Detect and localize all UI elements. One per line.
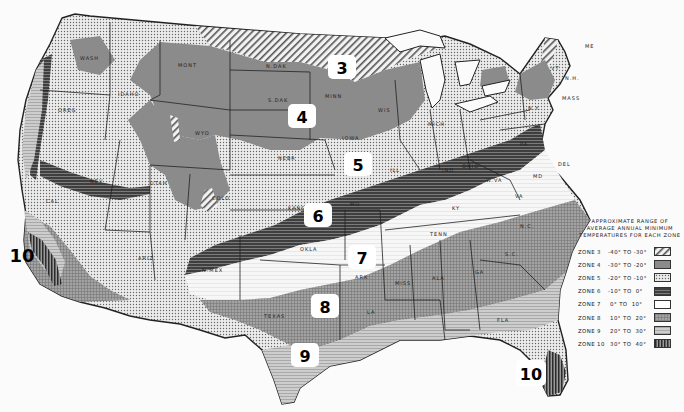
svg-text:DEL: DEL: [558, 161, 571, 167]
svg-text:NEV: NEV: [90, 178, 103, 184]
svg-text:9: 9: [299, 347, 310, 366]
legend-swatch-light-horizontal: [654, 326, 671, 335]
legend-row-zone-4: ZONE 4 -30° TO -20°: [578, 258, 682, 271]
svg-text:IDAHO: IDAHO: [118, 91, 139, 97]
legend-zone-label: ZONE 4: [578, 262, 608, 268]
legend-swatch-dots: [654, 273, 671, 282]
zone-marker-10-california: 10: [9, 245, 34, 266]
zone-marker-3: 3: [328, 55, 356, 79]
legend-title-line-1: APPROXIMATE RANGE OF: [578, 218, 682, 225]
svg-text:MONT: MONT: [178, 62, 197, 68]
svg-text:OHIO: OHIO: [462, 163, 479, 169]
legend-swatch-dark-horizontal: [654, 287, 671, 296]
legend-zone-label: ZONE 3: [578, 249, 608, 255]
svg-text:KANS: KANS: [288, 205, 306, 211]
svg-text:OKLA: OKLA: [300, 246, 318, 252]
zone-marker-6: 6: [304, 203, 332, 227]
legend-swatch-diagonal-hatch: [654, 247, 671, 256]
zone-marker-7: 7: [348, 245, 376, 269]
svg-text:TENN: TENN: [429, 231, 448, 237]
svg-text:S.C.: S.C.: [505, 251, 519, 257]
svg-text:5: 5: [352, 156, 363, 175]
svg-text:N.C.: N.C.: [520, 223, 534, 229]
svg-text:ME: ME: [585, 43, 594, 49]
legend-title-line-2: AVERAGE ANNUAL MINIMUM: [578, 225, 682, 232]
svg-text:10: 10: [9, 245, 34, 266]
svg-text:ALA: ALA: [432, 275, 445, 281]
legend-row-zone-3: ZONE 3 -40° TO -30°: [578, 245, 682, 258]
svg-text:LA: LA: [367, 309, 375, 315]
legend-row-zone-5: ZONE 5 -20° TO -10°: [578, 271, 682, 284]
legend-zone-label: ZONE 10: [578, 341, 608, 347]
svg-text:N.MEX: N.MEX: [202, 267, 223, 273]
svg-text:COLO: COLO: [212, 195, 230, 201]
svg-text:W.VA: W.VA: [486, 177, 502, 183]
zone-marker-8: 8: [311, 294, 339, 318]
svg-text:MISS: MISS: [395, 280, 411, 286]
svg-text:7: 7: [356, 249, 367, 268]
legend-zone-label: ZONE 9: [578, 328, 608, 334]
svg-text:MO: MO: [350, 201, 360, 207]
svg-text:MASS: MASS: [562, 95, 580, 101]
legend-range: -20° TO -10°: [608, 275, 654, 281]
legend-title: APPROXIMATE RANGE OF AVERAGE ANNUAL MINI…: [578, 218, 682, 239]
legend-row-zone-10: ZONE 10 30° TO 40°: [578, 337, 682, 350]
legend-range: -10° TO 0°: [608, 288, 654, 294]
svg-text:KY: KY: [452, 205, 460, 211]
svg-text:4: 4: [296, 108, 307, 127]
legend-swatch-white: [654, 300, 671, 309]
legend-range: 30° TO 40°: [608, 341, 654, 347]
svg-text:N.DAK: N.DAK: [266, 63, 287, 69]
svg-text:8: 8: [319, 298, 330, 317]
legend-zone-label: ZONE 7: [578, 301, 608, 307]
svg-text:ARK: ARK: [355, 274, 368, 280]
svg-text:WYO: WYO: [195, 130, 210, 136]
svg-text:OREG: OREG: [58, 107, 76, 113]
legend-range: 0° TO 10°: [608, 301, 654, 307]
legend-range: 10° TO 20°: [608, 315, 654, 321]
svg-text:3: 3: [336, 59, 347, 78]
legend-zone-label: ZONE 8: [578, 315, 608, 321]
svg-text:TEXAS: TEXAS: [263, 313, 285, 319]
legend-zone-label: ZONE 5: [578, 275, 608, 281]
svg-text:VA: VA: [515, 193, 524, 199]
zone-marker-10-florida: 10: [516, 360, 546, 386]
svg-text:GA: GA: [475, 269, 484, 275]
svg-text:VT: VT: [551, 65, 559, 71]
svg-text:MICH: MICH: [428, 121, 445, 127]
svg-text:IOWA: IOWA: [342, 135, 360, 141]
svg-text:PA: PA: [520, 141, 528, 147]
svg-text:ARIZ: ARIZ: [138, 255, 154, 261]
svg-text:N.Y.: N.Y.: [528, 105, 541, 111]
svg-text:N.H.: N.H.: [565, 75, 580, 81]
svg-text:MINN: MINN: [325, 93, 342, 99]
zone-marker-5: 5: [344, 152, 372, 176]
legend-row-zone-8: ZONE 8 10° TO 20°: [578, 311, 682, 324]
svg-text:UTAH: UTAH: [150, 180, 168, 186]
legend-range: -40° TO -30°: [608, 249, 654, 255]
legend-range: -30° TO -20°: [608, 262, 654, 268]
svg-text:ILL: ILL: [390, 167, 400, 173]
legend-row-zone-9: ZONE 9 20° TO 30°: [578, 324, 682, 337]
legend-title-line-3: TEMPERATURES FOR EACH ZONE: [578, 232, 682, 239]
legend-range: 20° TO 30°: [608, 328, 654, 334]
legend-zone-label: ZONE 6: [578, 288, 608, 294]
svg-text:NEBR: NEBR: [278, 155, 296, 161]
svg-text:CAL: CAL: [46, 198, 59, 204]
svg-text:WIS: WIS: [378, 107, 391, 113]
legend: APPROXIMATE RANGE OF AVERAGE ANNUAL MINI…: [578, 218, 682, 351]
svg-text:FLA: FLA: [497, 317, 509, 323]
zone-marker-4: 4: [288, 104, 316, 128]
svg-text:WASH: WASH: [80, 55, 99, 61]
svg-text:IND: IND: [442, 167, 454, 173]
svg-text:6: 6: [312, 207, 323, 226]
legend-swatch-solid-gray: [654, 260, 671, 269]
svg-text:10: 10: [520, 365, 542, 384]
legend-row-zone-6: ZONE 6 -10° TO 0°: [578, 285, 682, 298]
svg-text:MD: MD: [533, 173, 543, 179]
legend-swatch-vertical-dark: [654, 339, 671, 348]
svg-text:S.DAK: S.DAK: [268, 97, 288, 103]
zone-marker-9: 9: [291, 343, 319, 367]
legend-swatch-crosshatch-gray: [654, 313, 671, 322]
legend-row-zone-7: ZONE 7 0° TO 10°: [578, 298, 682, 311]
